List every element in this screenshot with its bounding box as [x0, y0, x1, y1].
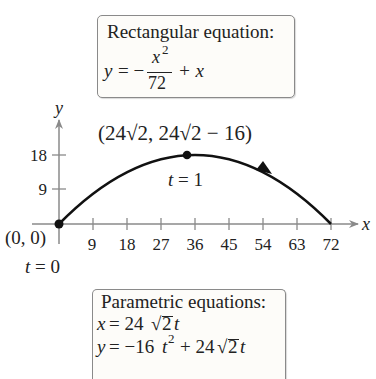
param-eq2-var: y	[97, 336, 105, 358]
param-eq2-coef2: + 24	[180, 336, 214, 358]
x-tick-label: 27	[153, 235, 171, 254]
parametric-equations-box: Parametric equations: x = 24 √ 2 t y = −…	[92, 289, 286, 379]
origin-t-label: t = 0	[25, 256, 60, 277]
origin-label: (0, 0)	[5, 227, 46, 249]
x-tick-label: 9	[88, 235, 97, 254]
y-tick-labels: 9 18	[30, 146, 47, 199]
vertex-t-label: t = 1	[168, 169, 203, 190]
x-tick-label: 54	[255, 235, 273, 254]
param-eq2-t: t	[162, 336, 167, 358]
sqrt-symbol: √	[217, 336, 227, 358]
param-eq1-t: t	[174, 313, 179, 335]
origin-point	[55, 220, 64, 229]
param-eq1-coef: = 24	[109, 313, 143, 335]
y-axis-label: y	[53, 98, 63, 118]
y-tick-label: 9	[39, 180, 48, 199]
x-tick-label: 72	[323, 235, 340, 254]
x-tick-label: 36	[187, 235, 204, 254]
param-eq2-t2: t	[240, 336, 245, 358]
parametric-equations-title: Parametric equations:	[101, 291, 266, 313]
x-tick-label: 18	[119, 235, 136, 254]
sqrt-symbol: √	[151, 313, 161, 335]
param-eq2-exponent: 2	[168, 331, 175, 347]
param-eq2-coef: = −16	[109, 336, 154, 358]
vertex-label: (24√2, 24√2 − 16)	[98, 121, 252, 145]
param-eq2-sqrt-arg: 2	[228, 336, 238, 358]
x-tick-label: 63	[289, 235, 306, 254]
x-tick-labels: 9 18 27 36 45 54 63 72	[88, 235, 340, 254]
y-tick-label: 18	[30, 146, 47, 165]
x-axis-label: x	[361, 214, 370, 234]
vertex-point	[183, 151, 192, 160]
x-tick-label: 45	[221, 235, 238, 254]
param-eq1-var: x	[97, 313, 105, 335]
